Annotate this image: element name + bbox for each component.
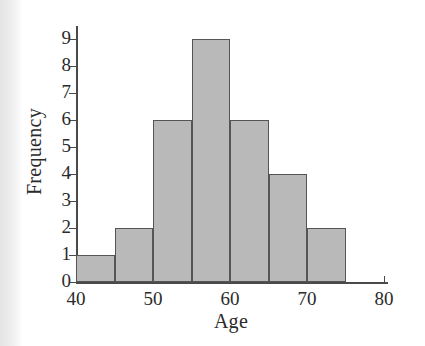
y-axis-tick: 2: [76, 228, 77, 229]
y-axis-line: [76, 26, 78, 284]
histogram-bar: [76, 255, 115, 282]
y-axis-tick-label: 1: [62, 244, 72, 263]
y-axis-tick: 9: [76, 39, 77, 40]
histogram-bar: [115, 228, 154, 282]
x-axis-tick: 50: [153, 283, 154, 284]
histogram-bar: [269, 174, 308, 282]
histogram-bar: [153, 120, 192, 282]
x-axis-tick: 80: [384, 283, 385, 284]
x-axis-tick-label: 60: [210, 289, 250, 308]
y-axis-tick-label: 7: [62, 82, 72, 101]
y-axis-tick-label: 9: [62, 28, 72, 47]
y-axis-tick-label: 8: [62, 55, 72, 74]
x-axis-tick: 60: [230, 283, 231, 284]
y-axis-tick-label: 3: [62, 190, 72, 209]
histogram-bar: [307, 228, 346, 282]
histogram-bar: [192, 39, 231, 282]
plot-area: 0123456789 4050607080: [76, 26, 396, 284]
x-axis-tick: 40: [76, 283, 77, 284]
x-axis-tick: 70: [307, 283, 308, 284]
y-axis-tick-label: 2: [62, 217, 72, 236]
x-axis-tick-label: 50: [133, 289, 173, 308]
y-axis-tick-label: 6: [62, 109, 72, 128]
x-axis-tick-label: 70: [287, 289, 327, 308]
y-axis-tick-label: 5: [62, 136, 72, 155]
x-axis-line: [76, 282, 388, 284]
histogram-figure: Frequency Age 0123456789 4050607080: [0, 0, 425, 346]
y-axis-label: Frequency: [23, 82, 46, 222]
y-axis-tick: 3: [76, 201, 77, 202]
y-axis-tick: 4: [76, 174, 77, 175]
y-axis-tick: 6: [76, 120, 77, 121]
y-axis-tick: 8: [76, 66, 77, 67]
y-axis-tick-label: 4: [62, 163, 72, 182]
x-axis-tick-mark: [384, 276, 385, 284]
y-axis-tick: 5: [76, 147, 77, 148]
histogram-bar: [230, 120, 269, 282]
y-axis-tick: 7: [76, 93, 77, 94]
x-axis-tick-label: 40: [56, 289, 96, 308]
x-axis-label: Age: [76, 310, 386, 333]
x-axis-tick-label: 80: [364, 289, 404, 308]
